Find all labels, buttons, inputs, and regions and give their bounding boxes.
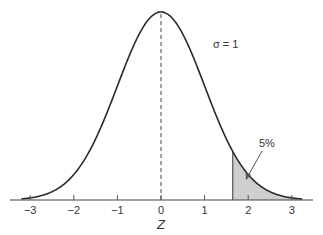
normal-curve [21,12,302,199]
percent-arrow-line [248,151,262,176]
percent-annotation: 5% [259,137,275,149]
x-tick-label: −1 [111,204,124,216]
sigma-annotation: σ = 1 [213,38,238,50]
x-axis-label: Z [156,217,166,232]
x-tick-label: −2 [68,204,81,216]
x-tick-label: 0 [158,204,164,216]
x-tick-label: −3 [24,204,37,216]
x-tick-label: 3 [289,204,295,216]
shaded-tail-region [233,151,301,200]
x-tick-label: 1 [202,204,208,216]
x-tick-label: 2 [245,204,251,216]
normal-distribution-chart: −3−2−10123 Z σ = 1 5% [0,0,323,235]
